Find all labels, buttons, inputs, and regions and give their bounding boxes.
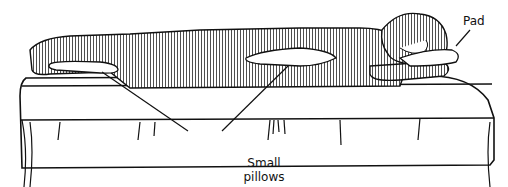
person xyxy=(30,13,449,88)
prone-position-illustration: Pad Small pillows xyxy=(0,0,508,187)
pad-label: Pad xyxy=(463,14,485,28)
mattress xyxy=(20,76,494,168)
small-pillows-label-line2: pillows xyxy=(238,170,290,184)
small-pillows-label-line1: Small xyxy=(238,156,290,170)
small-pillows-label: Small pillows xyxy=(238,156,290,184)
